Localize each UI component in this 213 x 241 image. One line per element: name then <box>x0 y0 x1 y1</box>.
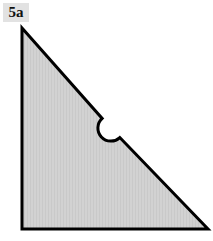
triangle-with-notch-shape <box>22 28 208 229</box>
figure-label: 5a <box>3 3 29 22</box>
shape-group <box>22 28 208 229</box>
figure-canvas <box>0 0 213 241</box>
